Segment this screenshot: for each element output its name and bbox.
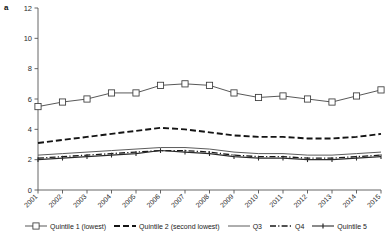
svg-text:2003: 2003 bbox=[72, 193, 88, 209]
legend-key-icon bbox=[227, 221, 251, 231]
data-point-marker bbox=[255, 94, 261, 100]
legend-item-2[interactable]: Q3 bbox=[227, 221, 262, 231]
svg-text:2011: 2011 bbox=[268, 193, 284, 209]
svg-text:2009: 2009 bbox=[219, 193, 235, 209]
data-point-marker bbox=[59, 99, 65, 105]
data-point-marker bbox=[304, 96, 310, 102]
svg-text:2008: 2008 bbox=[194, 193, 210, 209]
data-point-marker bbox=[84, 96, 90, 102]
series-line-1 bbox=[38, 128, 381, 143]
series-layer bbox=[35, 81, 384, 162]
svg-text:0: 0 bbox=[28, 186, 32, 195]
data-point-marker bbox=[182, 81, 188, 87]
svg-text:10: 10 bbox=[24, 34, 32, 43]
data-point-marker bbox=[206, 82, 212, 88]
legend-label: Quintile 1 (lowest) bbox=[50, 223, 106, 230]
legend-key-icon bbox=[311, 221, 335, 231]
svg-text:8: 8 bbox=[28, 64, 32, 73]
svg-text:2013: 2013 bbox=[317, 193, 333, 209]
svg-text:12: 12 bbox=[24, 4, 32, 13]
x-axis: 2001200220032004200520062007200820092010… bbox=[23, 190, 382, 209]
legend-label: Q3 bbox=[253, 223, 262, 230]
svg-text:2001: 2001 bbox=[23, 193, 39, 209]
line-chart-plot: 024681012 200120022003200420052006200720… bbox=[0, 0, 391, 246]
legend-label: Quintile 5 bbox=[337, 223, 367, 230]
data-point-marker bbox=[378, 87, 384, 93]
legend-label: Q4 bbox=[295, 223, 304, 230]
svg-text:2012: 2012 bbox=[292, 193, 308, 209]
legend-item-3[interactable]: Q4 bbox=[269, 221, 304, 231]
legend-item-0[interactable]: Quintile 1 (lowest) bbox=[24, 221, 106, 231]
svg-text:2002: 2002 bbox=[47, 193, 63, 209]
data-point-marker bbox=[133, 90, 139, 96]
svg-text:2010: 2010 bbox=[243, 193, 259, 209]
data-point-marker bbox=[280, 93, 286, 99]
svg-text:6: 6 bbox=[28, 95, 32, 104]
data-point-marker bbox=[231, 90, 237, 96]
data-point-marker bbox=[157, 82, 163, 88]
legend-item-4[interactable]: Quintile 5 bbox=[311, 221, 367, 231]
legend-key-icon bbox=[24, 221, 48, 231]
svg-text:2: 2 bbox=[28, 155, 32, 164]
legend-key-icon bbox=[113, 221, 137, 231]
legend-item-1[interactable]: Quintile 2 (second lowest) bbox=[113, 221, 220, 231]
chart-figure: a 024681012 2001200220032004200520062007… bbox=[0, 0, 391, 246]
legend-label: Quintile 2 (second lowest) bbox=[139, 223, 220, 230]
data-point-marker bbox=[35, 103, 41, 109]
svg-text:2007: 2007 bbox=[170, 193, 186, 209]
svg-text:2014: 2014 bbox=[341, 193, 357, 209]
svg-text:2005: 2005 bbox=[121, 193, 137, 209]
chart-legend: Quintile 1 (lowest)Quintile 2 (second lo… bbox=[0, 221, 391, 231]
svg-text:2006: 2006 bbox=[145, 193, 161, 209]
svg-text:2015: 2015 bbox=[366, 193, 382, 209]
svg-text:2004: 2004 bbox=[96, 193, 112, 209]
legend-key-icon bbox=[269, 221, 293, 231]
svg-text:4: 4 bbox=[28, 125, 32, 134]
data-point-marker bbox=[108, 90, 114, 96]
data-point-marker bbox=[353, 93, 359, 99]
data-point-marker bbox=[329, 99, 335, 105]
y-axis: 024681012 bbox=[24, 4, 38, 195]
